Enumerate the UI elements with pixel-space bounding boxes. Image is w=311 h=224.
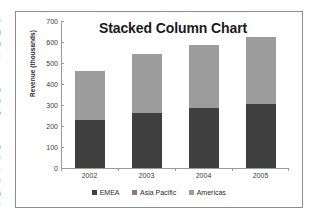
scan-text-fragment: n <box>0 95 1 106</box>
y-axis-tick-mark <box>61 63 64 64</box>
x-axis-tick-mark <box>175 168 176 171</box>
x-axis-tick-label: 2002 <box>64 172 116 179</box>
legend-label: Americas <box>197 189 226 196</box>
x-axis-tick-label: 2003 <box>121 172 173 179</box>
legend-item[interactable]: Asia Pacific <box>132 189 176 196</box>
bars-layer <box>61 12 289 169</box>
legend-swatch-icon <box>132 190 137 195</box>
plot-area: Revenue (thousands) Stacked Column Chart… <box>16 12 302 207</box>
bar-segment[interactable] <box>132 113 162 168</box>
y-axis-tick-mark <box>61 147 64 148</box>
scan-text-fragment: h <box>0 141 1 152</box>
y-axis-tick-label: 300 <box>32 102 58 109</box>
y-axis-tick-mark <box>61 105 64 106</box>
bar-segment[interactable] <box>189 45 219 108</box>
bar-segment[interactable] <box>246 104 276 168</box>
y-axis-tick-label: 200 <box>32 123 58 130</box>
legend-item[interactable]: EMEA <box>92 189 119 196</box>
bar-segment[interactable] <box>189 108 219 168</box>
bar-segment[interactable] <box>75 120 105 168</box>
y-axis-tick-mark <box>61 21 64 22</box>
scan-text-fragment: a <box>0 187 1 198</box>
bar-segment[interactable] <box>132 54 162 113</box>
scan-left-text-fragments: reductionoftheseas <box>0 4 11 220</box>
bar-segment[interactable] <box>75 71 105 119</box>
scan-text-fragment: u <box>0 38 1 49</box>
x-axis-tick-mark <box>288 168 289 171</box>
y-axis-tick-labels: 0100200300400500600700 <box>32 12 58 207</box>
legend-label: Asia Pacific <box>140 189 176 196</box>
chart-frame: Revenue (thousands) Stacked Column Chart… <box>15 11 303 208</box>
x-axis-tick-label: 2005 <box>235 172 287 179</box>
x-axis-tick-mark <box>232 168 233 171</box>
scan-text-fragment: o <box>0 84 1 95</box>
y-axis-tick-mark <box>61 84 64 85</box>
x-axis-tick-label: 2004 <box>178 172 230 179</box>
y-axis-tick-label: 700 <box>32 18 58 25</box>
bar-segment[interactable] <box>246 37 276 104</box>
legend-label: EMEA <box>100 189 120 196</box>
scan-text-fragment: o <box>0 107 1 118</box>
y-axis-tick-label: 400 <box>32 81 58 88</box>
y-axis-tick-label: 600 <box>32 39 58 46</box>
bar-group[interactable] <box>132 54 162 168</box>
legend-swatch-icon <box>189 190 194 195</box>
x-axis-tick-mark <box>118 168 119 171</box>
legend-swatch-icon <box>92 190 97 195</box>
scan-text-fragment: e <box>0 152 1 163</box>
scan-text-fragment: d <box>0 27 1 38</box>
bar-group[interactable] <box>75 71 105 168</box>
scan-text-fragment: e <box>0 15 1 26</box>
y-axis-tick-label: 500 <box>32 60 58 67</box>
y-axis-tick-label: 100 <box>32 144 58 151</box>
y-axis-tick-mark <box>61 168 64 169</box>
bar-group[interactable] <box>246 37 276 168</box>
bar-group[interactable] <box>189 45 219 168</box>
y-axis-tick-label: 0 <box>32 165 58 172</box>
legend-item[interactable]: Americas <box>189 189 226 196</box>
scan-text-fragment: e <box>0 175 1 186</box>
y-axis-tick-mark <box>61 42 64 43</box>
y-axis-tick-mark <box>61 126 64 127</box>
chart-legend: EMEAAsia PacificAmericas <box>16 189 302 196</box>
x-axis-tick-labels: 2002200320042005 <box>61 172 289 186</box>
